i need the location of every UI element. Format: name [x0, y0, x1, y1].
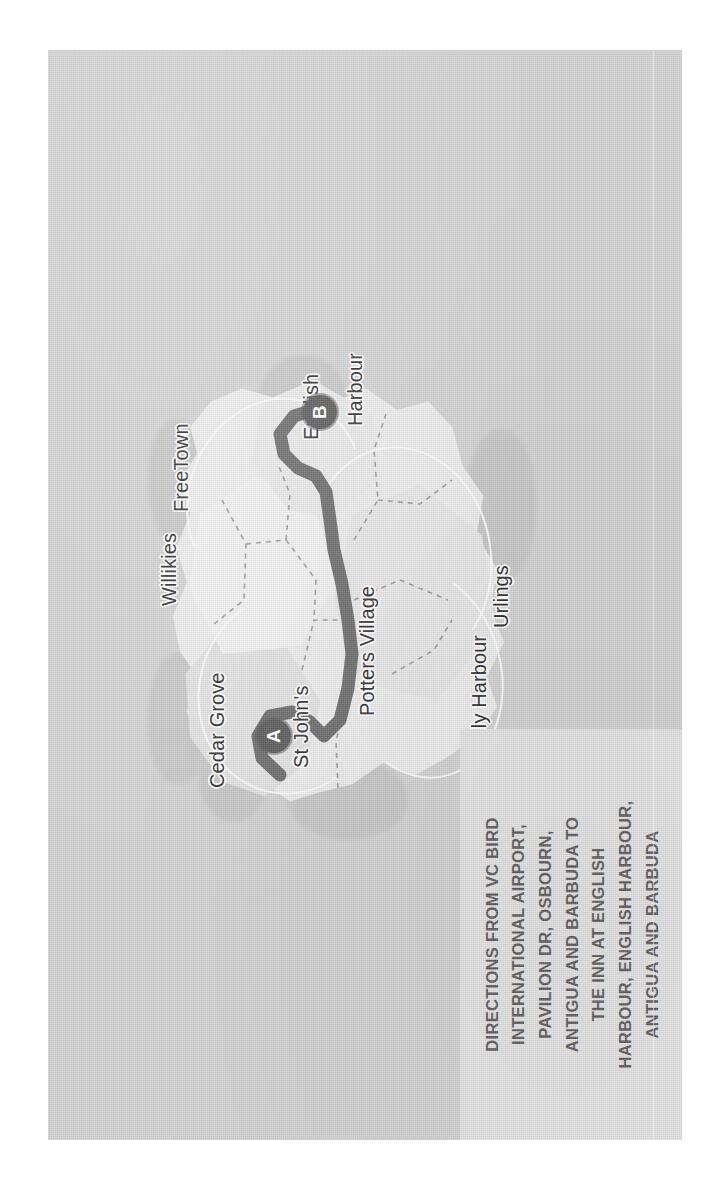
- map-label-free-town: FreeTown: [170, 423, 193, 512]
- map-label-urlings: Urlings: [490, 565, 513, 628]
- map-label-harbour: Harbour: [344, 353, 367, 426]
- marker-a[interactable]: A: [257, 719, 291, 753]
- caption-line-2: INTERNATIONAL AIRPORT,: [508, 824, 529, 1045]
- map-label-st-johns: St John's: [290, 685, 313, 768]
- caption-line-5: THE INN AT ENGLISH: [588, 847, 609, 1021]
- map-label-potters-village: Potters Village: [356, 586, 379, 716]
- caption-line-7: ANTIGUA AND BARBUDA: [642, 831, 663, 1039]
- scanned-page: Cedar Grove St John's Potters Village Jo…: [48, 50, 682, 1140]
- directions-caption: DIRECTIONS FROM VC BIRD INTERNATIONAL AI…: [460, 729, 682, 1140]
- caption-line-1: DIRECTIONS FROM VC BIRD: [482, 817, 503, 1051]
- map-label-cedar-grove: Cedar Grove: [206, 672, 229, 788]
- caption-line-6: HARBOUR, ENGLISH HARBOUR,: [615, 801, 636, 1069]
- caption-line-3: PAVILION DR, OSBOURN,: [535, 830, 556, 1038]
- map-label-willikies: Willikies: [158, 533, 181, 606]
- page-fold-line: [653, 50, 654, 1140]
- rotated-document-content: Cedar Grove St John's Potters Village Jo…: [48, 50, 682, 1140]
- marker-b[interactable]: B: [303, 395, 337, 429]
- caption-line-4: ANTIGUA AND BARBUDA TO: [562, 817, 583, 1052]
